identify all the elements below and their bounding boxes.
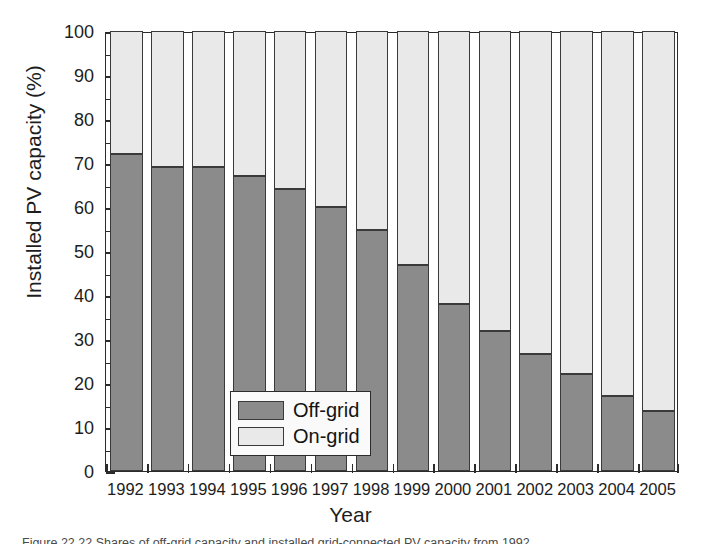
y-tick-label: 70: [34, 154, 94, 174]
x-tick-mark: [270, 464, 272, 473]
bar-segment-on-grid: [233, 31, 266, 176]
figure-stacked-bar-chart: Installed PV capacity (%) 01020304050607…: [0, 0, 701, 544]
x-tick-mark: [147, 464, 149, 473]
legend: Off-grid On-grid: [230, 391, 371, 456]
legend-label-on-grid: On-grid: [293, 426, 360, 446]
bar-segment-on-grid: [192, 31, 225, 167]
x-tick-mark: [393, 464, 395, 473]
x-tick-label-2004: 2004: [598, 480, 635, 499]
x-tick-label-1998: 1998: [353, 480, 390, 499]
bar-segment-on-grid: [110, 31, 143, 154]
y-tick-label: 50: [34, 242, 94, 262]
y-tick-label: 100: [34, 22, 94, 42]
table-row: [151, 31, 184, 471]
bar-segment-off-grid: [560, 374, 593, 471]
x-tick-mark: [188, 464, 190, 473]
bar-segment-on-grid: [274, 31, 307, 189]
bar-segment-on-grid: [315, 31, 348, 207]
x-tick-mark: [433, 464, 435, 473]
y-tick-label: 30: [34, 330, 94, 350]
table-row: [397, 31, 430, 471]
x-tick-label-1992: 1992: [107, 480, 144, 499]
legend-item-off-grid: Off-grid: [238, 397, 360, 423]
x-tick-mark: [597, 464, 599, 473]
bar-segment-on-grid: [601, 31, 634, 396]
x-tick-label-2005: 2005: [639, 480, 676, 499]
bar-segment-on-grid: [151, 31, 184, 167]
bar-segment-off-grid: [151, 167, 184, 471]
x-tick-mark: [474, 464, 476, 473]
x-tick-mark: [229, 464, 231, 473]
x-tick-label-2003: 2003: [557, 480, 594, 499]
table-row: [601, 31, 634, 471]
x-tick-label-2000: 2000: [435, 480, 472, 499]
y-tick-label: 90: [34, 66, 94, 86]
bar-segment-on-grid: [479, 31, 512, 331]
x-tick-label-2001: 2001: [475, 480, 512, 499]
y-tick-label: 20: [34, 374, 94, 394]
table-row: [110, 31, 143, 471]
x-tick-mark: [638, 464, 640, 473]
table-row: [642, 31, 675, 471]
x-tick-label-1997: 1997: [312, 480, 349, 499]
x-tick-mark: [311, 464, 313, 473]
x-tick-label-1996: 1996: [271, 480, 308, 499]
bar-segment-on-grid: [519, 31, 552, 354]
bar-segment-off-grid: [642, 411, 675, 471]
x-tick-label-1999: 1999: [394, 480, 431, 499]
x-tick-mark: [352, 464, 354, 473]
bar-segment-off-grid: [438, 304, 471, 471]
x-tick-label-1995: 1995: [230, 480, 267, 499]
bar-segment-on-grid: [397, 31, 430, 265]
bar-segment-on-grid: [642, 31, 675, 411]
figure-caption: Figure 22.22 Shares of off-grid capacity…: [22, 536, 682, 544]
bar-segment-off-grid: [192, 167, 225, 471]
table-row: [192, 31, 225, 471]
bar-segment-on-grid: [438, 31, 471, 304]
dark-gray-swatch-icon: [238, 401, 284, 420]
bar-segment-off-grid: [397, 265, 430, 471]
legend-item-on-grid: On-grid: [238, 423, 360, 449]
table-row: [479, 31, 512, 471]
x-axis-title: Year: [0, 503, 701, 527]
table-row: [560, 31, 593, 471]
table-row: [519, 31, 552, 471]
x-tick-mark-edge: [106, 464, 108, 473]
bar-segment-off-grid: [601, 396, 634, 471]
x-tick-mark: [556, 464, 558, 473]
bar-segment-off-grid: [110, 154, 143, 471]
bar-segment-off-grid: [519, 354, 552, 471]
x-tick-label-2002: 2002: [516, 480, 553, 499]
x-tick-label-1994: 1994: [189, 480, 226, 499]
legend-label-off-grid: Off-grid: [293, 400, 359, 420]
y-tick-label: 10: [34, 418, 94, 438]
x-tick-mark: [515, 464, 517, 473]
bar-segment-on-grid: [356, 31, 389, 230]
x-tick-label-1993: 1993: [148, 480, 185, 499]
y-tick-label: 80: [34, 110, 94, 130]
bar-segment-off-grid: [479, 331, 512, 471]
x-tick-mark-edge: [677, 464, 679, 473]
bar-segment-on-grid: [560, 31, 593, 374]
light-gray-swatch-icon: [238, 427, 284, 446]
table-row: [438, 31, 471, 471]
plot-area: 0102030405060708090100 Off-grid On-grid: [105, 32, 678, 472]
y-tick-label: 40: [34, 286, 94, 306]
y-tick-label: 60: [34, 198, 94, 218]
y-tick-label: 0: [34, 462, 94, 482]
